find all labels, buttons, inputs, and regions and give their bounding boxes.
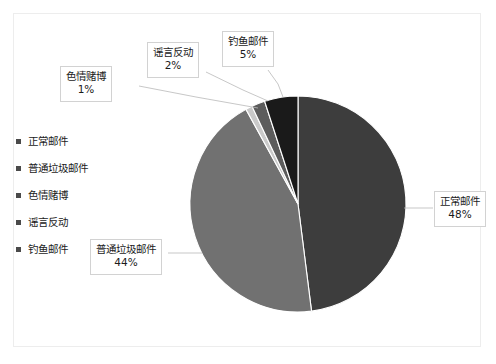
- legend-item-rumor[interactable]: 谣言反动: [16, 209, 126, 236]
- data-label-value: 2%: [153, 59, 193, 72]
- legend-swatch-icon: [16, 247, 21, 252]
- data-label-name: 普通垃圾邮件: [96, 243, 156, 256]
- data-label-name: 色情赌博: [66, 70, 106, 83]
- legend-item-label: 谣言反动: [28, 217, 68, 228]
- legend-swatch-icon: [16, 139, 21, 144]
- legend-item-label: 正常邮件: [28, 136, 68, 147]
- data-label-porn: 色情赌博 1%: [60, 66, 112, 102]
- legend-swatch-icon: [16, 220, 21, 225]
- legend-item-label: 钓鱼邮件: [28, 244, 68, 255]
- legend-item-label: 普通垃圾邮件: [28, 163, 88, 174]
- data-label-value: 5%: [228, 48, 268, 61]
- legend-swatch-icon: [16, 166, 21, 171]
- legend-item-spam[interactable]: 普通垃圾邮件: [16, 155, 126, 182]
- legend-item-label: 色情赌博: [28, 190, 68, 201]
- leader-line-rumor: [206, 72, 268, 101]
- data-label-value: 44%: [96, 256, 156, 269]
- pie-chart-figure: 正常邮件 普通垃圾邮件 色情赌博 谣言反动 钓鱼邮件 色情赌博 1% 谣言反动 …: [0, 0, 496, 364]
- pie-slice[interactable]: [298, 96, 406, 311]
- data-label-name: 正常邮件: [440, 195, 480, 208]
- legend-item-porn[interactable]: 色情赌博: [16, 182, 126, 209]
- leader-line-porn: [139, 86, 258, 108]
- data-label-name: 钓鱼邮件: [228, 35, 268, 48]
- data-label-spam: 普通垃圾邮件 44%: [90, 239, 162, 275]
- data-label-value: 48%: [440, 208, 480, 221]
- data-label-normal: 正常邮件 48%: [434, 191, 486, 227]
- legend-swatch-icon: [16, 193, 21, 198]
- legend-item-normal[interactable]: 正常邮件: [16, 128, 126, 155]
- pie-slices-group: [190, 96, 406, 312]
- leader-line-phishing: [268, 70, 283, 97]
- data-label-rumor: 谣言反动 2%: [147, 42, 199, 78]
- data-label-phishing: 钓鱼邮件 5%: [222, 31, 274, 67]
- data-label-name: 谣言反动: [153, 46, 193, 59]
- data-label-value: 1%: [66, 83, 106, 96]
